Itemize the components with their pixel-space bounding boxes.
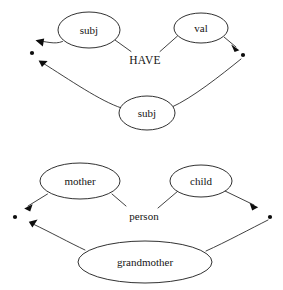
node-grandmother-label: grandmother [117,256,174,268]
node-mother-label: mother [64,175,95,187]
node-mother[interactable]: mother [40,163,120,199]
node-subj-top-label: subj [80,24,98,36]
terminal-dot-right-have [241,53,245,57]
node-child-label: child [190,175,212,187]
arrowhead-grandmother-to-left-dot [29,220,38,228]
arrowhead-subj-top-to-left-dot [36,39,45,47]
edge-subj-bottom-to-left-dot [42,63,122,109]
node-subj-bottom-label: subj [138,107,156,119]
terminal-dot-right-person [268,215,272,219]
node-subj-bottom[interactable]: subj [119,96,175,130]
arrowhead-child-to-right-dot [250,203,259,211]
edge-val-to-right-dot [224,37,236,47]
edge-child-to-right-dot [225,191,254,205]
edge-subj-bottom-to-right-dot [172,59,241,107]
edge-subj-top-to-have [115,40,131,52]
arrowhead-val-to-right-dot [231,45,239,52]
edge-grandmother-to-right-dot [206,220,268,251]
node-val-top[interactable]: val [174,13,228,43]
edge-child-to-person [158,191,178,208]
node-child[interactable]: child [170,165,232,197]
node-grandmother[interactable]: grandmother [78,241,212,283]
edge-mother-to-person [112,194,126,206]
edge-grandmother-to-left-dot [33,224,85,250]
terminal-dot-left-person [13,215,17,219]
person-diagram: mother child grandmother person [13,163,272,283]
have-diagram: subj val subj HAVE [30,12,245,130]
node-val-top-label: val [194,22,207,34]
edge-val-to-have [160,36,178,52]
relation-label-have: HAVE [129,54,161,66]
arrowhead-subj-bottom-to-left-dot [39,61,48,68]
node-subj-top[interactable]: subj [58,12,120,48]
terminal-dot-left-have [30,51,34,55]
relation-label-person: person [129,210,159,222]
edge-mother-to-left-dot [28,194,48,206]
concept-graph-figure: subj val subj HAVE [0,0,283,290]
